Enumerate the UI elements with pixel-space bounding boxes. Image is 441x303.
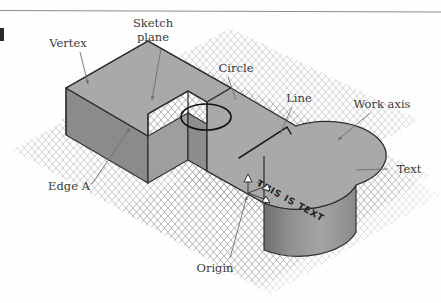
callout-label-circle: Circle <box>219 61 254 75</box>
callout-label-edge-a: Edge A <box>48 179 91 193</box>
callout-label-origin: Origin <box>196 261 234 275</box>
callout-label-work-axis: Work axis <box>353 97 410 111</box>
block-mid-face <box>188 113 207 171</box>
callout-label-line: Line <box>286 91 312 105</box>
margin-figure-mark <box>0 28 4 41</box>
callout-label-text: Text <box>397 162 422 176</box>
callout-label-vertex: Vertex <box>48 36 87 50</box>
figure-canvas: THIS IS TEXT Y Sketch plane Vert <box>0 0 441 303</box>
callout-label-sketch-plane-line2: plane <box>137 30 169 44</box>
callout-label-sketch-plane-line1: Sketch <box>133 16 174 30</box>
